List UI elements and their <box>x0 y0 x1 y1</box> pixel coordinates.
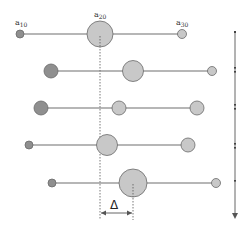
row-5 <box>48 169 221 197</box>
arrow-tick <box>234 108 236 110</box>
row-3-node-left <box>34 101 48 115</box>
arrow-tick <box>234 67 236 69</box>
row-5-node-center <box>119 169 147 197</box>
row-1-node-right <box>178 30 187 39</box>
row-2-node-center <box>123 61 144 82</box>
row-4-node-left <box>25 141 33 149</box>
arrow-tick <box>234 71 236 73</box>
arrow-tick <box>234 147 236 149</box>
row-2 <box>44 61 217 82</box>
label-a30: a30 <box>176 18 189 28</box>
row-2-node-right <box>208 67 217 76</box>
row-1-node-left <box>16 30 24 38</box>
row-3-node-right <box>190 101 204 115</box>
label-a20: a20 <box>94 10 107 20</box>
label-a10: a10 <box>15 18 28 28</box>
row-4-node-right <box>181 138 195 152</box>
diagram-canvas: a10 a20 a30 Δ <box>0 0 240 227</box>
arrow-tick <box>234 104 236 106</box>
row-4 <box>25 135 195 156</box>
delta-label: Δ <box>110 198 119 212</box>
row-3-node-center <box>112 101 126 115</box>
arrow-tick <box>234 180 236 182</box>
row-5-node-right <box>212 179 221 188</box>
row-3 <box>34 101 204 115</box>
row-5-node-left <box>48 179 56 187</box>
row-1 <box>16 21 187 47</box>
row-4-node-center <box>97 135 118 156</box>
row-2-node-left <box>44 64 58 78</box>
arrow-tick <box>234 31 236 33</box>
arrow-tick <box>234 143 236 145</box>
